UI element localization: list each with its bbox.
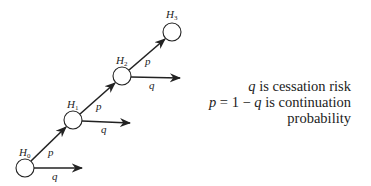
legend-line-2: p = 1 − q is continuation	[209, 94, 351, 110]
legend-equation: = 1 −	[216, 94, 254, 110]
legend-text: is continuation	[262, 94, 351, 110]
legend-line-3: probability	[209, 110, 351, 126]
node-label: H1	[66, 98, 79, 112]
edge-label-q: q	[101, 123, 107, 135]
edge-label-p: p	[144, 55, 151, 67]
node-H1: H1	[64, 98, 82, 129]
node-H3: H3	[163, 8, 181, 41]
state-circle	[163, 23, 181, 41]
state-circle	[113, 67, 131, 85]
legend-text: is cessation risk	[256, 78, 351, 94]
edge-label-p: p	[47, 146, 54, 158]
edge-label-q: q	[149, 79, 155, 91]
var-q: q	[248, 78, 255, 94]
legend: q is cessation risk p = 1 − q is continu…	[209, 78, 351, 126]
legend-line-1: q is cessation risk	[209, 78, 351, 94]
state-circle	[16, 159, 34, 177]
node-H2: H2	[113, 54, 131, 85]
node-label: H3	[165, 8, 178, 22]
node-label: H0	[18, 146, 31, 160]
state-circle	[64, 111, 82, 129]
node-H0: H0	[16, 146, 34, 177]
var-q: q	[254, 94, 261, 110]
node-label: H2	[115, 54, 128, 68]
edge-label-q: q	[52, 170, 58, 182]
edge-label-p: p	[95, 100, 102, 112]
